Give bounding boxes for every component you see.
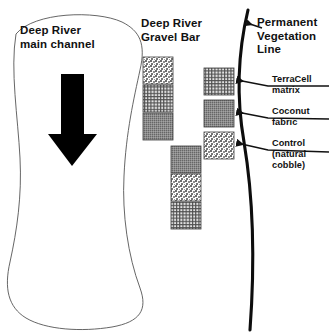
river-channel-label-line2: main channel bbox=[20, 38, 95, 52]
vegetation-line-label-line1: Permanent bbox=[257, 16, 317, 30]
river-channel-label-line1: Deep River bbox=[20, 24, 95, 38]
vegetation-line-label-line3: Line bbox=[257, 43, 317, 57]
river-channel-label: Deep River main channel bbox=[20, 24, 95, 51]
plot-left-1-control bbox=[143, 57, 173, 84]
terracell-label-line2: matrix bbox=[272, 85, 312, 96]
plot-column-middle bbox=[171, 146, 201, 229]
plot-right-1-terracell bbox=[204, 68, 234, 95]
plot-left-2-terracell bbox=[143, 85, 173, 112]
plot-middle-3-terracell bbox=[171, 202, 201, 229]
plot-column-right bbox=[204, 68, 234, 159]
plot-right-3-control bbox=[204, 132, 234, 159]
control-label-line2: (natural bbox=[272, 149, 306, 160]
plot-left-3-coconut bbox=[143, 113, 173, 140]
gravel-bar-label-line1: Deep River bbox=[141, 17, 202, 31]
coconut-label-line2: fabric bbox=[272, 117, 310, 128]
gravel-bar-label-line2: Gravel Bar bbox=[141, 31, 202, 45]
control-label: Control (natural cobble) bbox=[272, 138, 306, 171]
plot-middle-2-control bbox=[171, 174, 201, 201]
terracell-label-line1: TerraCell bbox=[272, 74, 312, 85]
plot-column-left bbox=[143, 57, 173, 140]
vegetation-line-label-line2: Vegetation bbox=[257, 30, 317, 44]
plot-right-2-coconut bbox=[204, 100, 234, 127]
gravel-bar-label: Deep River Gravel Bar bbox=[141, 17, 202, 44]
terracell-label: TerraCell matrix bbox=[272, 74, 312, 96]
coconut-label-line1: Coconut bbox=[272, 106, 310, 117]
vegetation-line-label: Permanent Vegetation Line bbox=[257, 16, 317, 57]
control-label-line1: Control bbox=[272, 138, 306, 149]
coconut-label: Coconut fabric bbox=[272, 106, 310, 128]
site-diagram: Deep River main channel Deep River Grave… bbox=[0, 0, 329, 336]
plot-middle-1-coconut bbox=[171, 146, 201, 173]
river-channel-outline bbox=[7, 15, 143, 330]
control-label-line3: cobble) bbox=[272, 160, 306, 171]
permanent-vegetation-line bbox=[239, 10, 253, 330]
